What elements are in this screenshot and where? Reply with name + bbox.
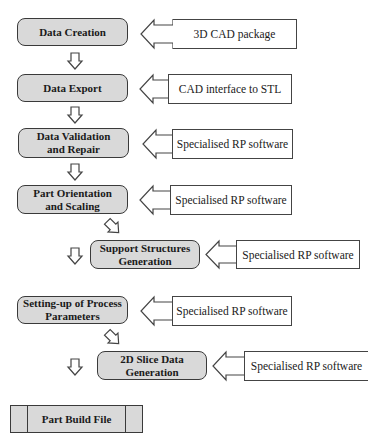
step-part-orientation: Part Orientation and Scaling [17,185,128,214]
step-label: Data Creation [39,26,106,39]
step-data-export: Data Export [17,74,128,102]
step-label: Data Export [43,82,101,95]
source-box: Specialised RP software [172,129,293,159]
diagonal-arrow-icon [104,218,122,236]
source-cad-interface: CAD interface to STL [139,74,292,104]
source-3d-cad-package: 3D CAD package [140,19,297,49]
source-box: Specialised RP software [236,240,360,269]
step-2d-slice-data: 2D Slice Data Generation [97,351,207,380]
left-arrow-icon [212,351,246,381]
source-rp-software: Specialised RP software [142,129,293,159]
step-label: Data Validation and Repair [37,130,111,156]
source-rp-software: Specialised RP software [205,240,360,269]
source-box: Specialised RP software [172,296,292,326]
left-arrow-icon [142,129,176,159]
source-box: Specialised RP software [170,185,292,215]
source-rp-software: Specialised RP software [139,185,292,215]
step-label: 2D Slice Data Generation [120,353,184,379]
source-box: 3D CAD package [173,19,297,49]
source-label: Specialised RP software [176,305,287,317]
down-arrow-icon [67,358,83,376]
step-label: Part Orientation and Scaling [33,187,112,213]
down-arrow-icon [67,163,83,181]
source-box: CAD interface to STL [168,74,292,104]
down-arrow-icon [67,52,83,70]
source-label: 3D CAD package [194,28,276,40]
source-label: Specialised RP software [251,360,362,372]
down-arrow-icon [67,247,83,265]
divider [125,406,126,432]
left-arrow-icon [205,240,239,269]
left-arrow-icon [140,296,174,326]
step-data-validation: Data Validation and Repair [18,128,129,158]
down-arrow-icon [67,106,83,124]
left-arrow-icon [139,185,173,215]
step-data-creation: Data Creation [17,18,128,46]
source-label: CAD interface to STL [179,83,282,95]
source-rp-software: Specialised RP software [140,296,292,326]
diagonal-arrow-icon [104,329,122,347]
output-part-build-file: Part Build File [10,405,143,433]
source-label: Specialised RP software [177,138,288,150]
source-rp-software: Specialised RP software [212,351,368,381]
output-label: Part Build File [42,413,112,425]
left-arrow-icon [140,19,174,49]
divider [27,406,28,432]
step-label: Setting-up of Process Parameters [23,297,122,323]
source-label: Specialised RP software [242,249,353,261]
step-support-structures: Support Structures Generation [90,240,200,269]
step-label: Support Structures Generation [100,242,191,268]
source-box: Specialised RP software [244,351,368,381]
source-label: Specialised RP software [175,194,286,206]
step-process-parameters: Setting-up of Process Parameters [17,296,128,324]
